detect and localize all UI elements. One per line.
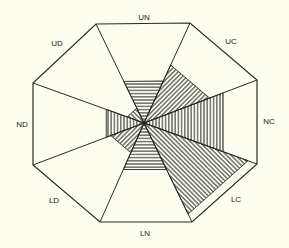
- octagon-rose-diagram: UN UC NC LC LN LD ND UD: [0, 0, 289, 248]
- sector-label-ln: LN: [140, 229, 150, 238]
- sector-label-un: UN: [138, 13, 150, 22]
- diagram-canvas: [0, 0, 289, 248]
- sector-label-nc: NC: [263, 117, 275, 126]
- sector-label-uc: UC: [225, 37, 237, 46]
- sector-label-nd: ND: [16, 120, 28, 129]
- center-point: [142, 121, 146, 125]
- sector-label-lc: LC: [231, 195, 241, 204]
- sector-label-ud: UD: [51, 39, 63, 48]
- sector-label-ld: LD: [49, 196, 59, 205]
